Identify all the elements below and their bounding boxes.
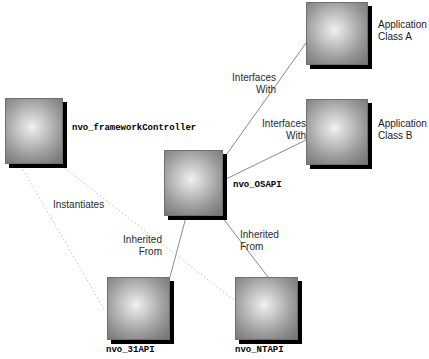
- node-box-application-class-b[interactable]: [306, 99, 368, 165]
- edge-label-inherited-from-right: Inherited From: [240, 229, 296, 253]
- node-framework-controller[interactable]: [5, 98, 63, 164]
- node-box-framework-controller[interactable]: [5, 98, 63, 164]
- node-box-nvo-31api[interactable]: [107, 277, 170, 340]
- node-label-application-class-a: Application Class A: [378, 19, 427, 43]
- node-nvo-31api[interactable]: [107, 277, 170, 340]
- node-label-nvo-ntapi: nvo_NTAPI: [235, 345, 284, 356]
- node-label-nvo-31api: nvo_31API: [106, 345, 155, 356]
- edge-controller-instantiates-31api: [21, 166, 104, 309]
- edge-label-interfaces-with-a: Interfaces With: [216, 72, 276, 96]
- node-label-framework-controller: nvo_frameworkController: [72, 123, 196, 134]
- node-label-application-class-b: Application Class B: [378, 118, 427, 142]
- node-box-nvo-ntapi[interactable]: [235, 277, 298, 340]
- node-osapi[interactable]: [164, 150, 223, 216]
- edge-nvo-31api-to-osapi: [170, 217, 186, 277]
- class-diagram-canvas: nvo_frameworkController nvo_OSAPI Applic…: [0, 0, 429, 359]
- node-label-osapi: nvo_OSAPI: [233, 180, 282, 191]
- node-application-class-b[interactable]: [306, 99, 368, 165]
- node-application-class-a[interactable]: [306, 2, 368, 65]
- edge-label-inherited-from-left: Inherited From: [106, 234, 162, 258]
- node-nvo-ntapi[interactable]: [235, 277, 298, 340]
- edge-label-interfaces-with-b: Interfaces With: [246, 118, 306, 142]
- node-box-osapi[interactable]: [164, 150, 223, 216]
- edge-label-instantiates: Instantiates: [53, 199, 123, 211]
- edge-osapi-to-class-b: [224, 140, 306, 180]
- node-box-application-class-a[interactable]: [306, 2, 368, 65]
